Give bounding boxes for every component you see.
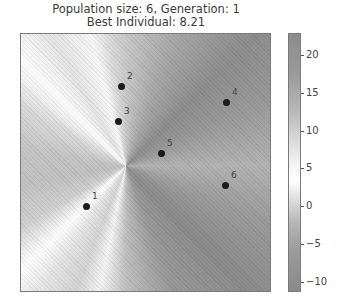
individual-point: [83, 203, 90, 210]
individual-point: [223, 99, 230, 106]
colorbar-tick-label: 10: [306, 126, 319, 136]
individual-point: [222, 182, 229, 189]
colorbar-tick-label: 20: [306, 50, 319, 60]
colorbar-tick: [301, 206, 304, 207]
colorbar-tick-label: 15: [306, 88, 319, 98]
plot-area: [20, 33, 271, 292]
colorbar-tick-label: 0: [306, 201, 312, 211]
individual-label: 3: [124, 106, 130, 116]
colorbar-tick: [301, 55, 304, 56]
colorbar-tick: [301, 93, 304, 94]
colorbar-tick: [301, 168, 304, 169]
colorbar-tick: [301, 244, 304, 245]
individual-label: 5: [167, 138, 173, 148]
individual-label: 1: [92, 191, 98, 201]
colorbar-tick-label: −10: [306, 277, 327, 287]
individual-label: 4: [232, 87, 238, 97]
individual-point: [158, 150, 165, 157]
colorbar-tick-label: 5: [306, 163, 312, 173]
individual-label: 6: [231, 170, 237, 180]
colorbar: [288, 33, 301, 292]
landscape-texture: [21, 34, 270, 291]
colorbar-tick: [301, 131, 304, 132]
chart-title-line-2: Best Individual: 8.21: [0, 16, 292, 29]
individual-label: 2: [127, 71, 133, 81]
individual-point: [115, 118, 122, 125]
colorbar-tick-label: −5: [306, 239, 321, 249]
individual-point: [118, 83, 125, 90]
colorbar-tick: [301, 282, 304, 283]
